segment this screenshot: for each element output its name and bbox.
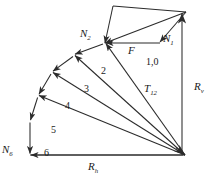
label-t12: T12 (144, 83, 157, 97)
parallelogram-diagonal-to-n2 (105, 12, 186, 43)
label-ray-3: 3 (84, 84, 89, 94)
label-rh: Rh (88, 161, 98, 175)
parallelogram-left-edge (105, 6, 113, 43)
label-ray-2: 2 (101, 66, 106, 76)
arc-segment-n2-p3 (75, 44, 103, 54)
label-ray-5: 5 (51, 125, 56, 135)
force-polygon-figure (0, 0, 218, 182)
label-one-zero: 1,0 (146, 57, 159, 67)
label-n1: N1 (163, 33, 174, 47)
label-ray-4: 4 (65, 101, 70, 111)
arc-segment-p4-p5 (39, 74, 51, 94)
label-n2: N2 (80, 28, 91, 42)
parallelogram-upper-edge (113, 6, 186, 12)
label-n6: N6 (2, 144, 13, 158)
arc-segment-p5-p6 (31, 98, 38, 121)
label-ray-6: 6 (44, 148, 49, 158)
ray-4 (53, 73, 185, 156)
ray-3 (75, 56, 185, 156)
label-rv: Rv (194, 81, 204, 95)
arc-segment-p3-p4 (53, 57, 73, 72)
ray-5 (39, 96, 185, 156)
label-f: F (128, 45, 135, 56)
